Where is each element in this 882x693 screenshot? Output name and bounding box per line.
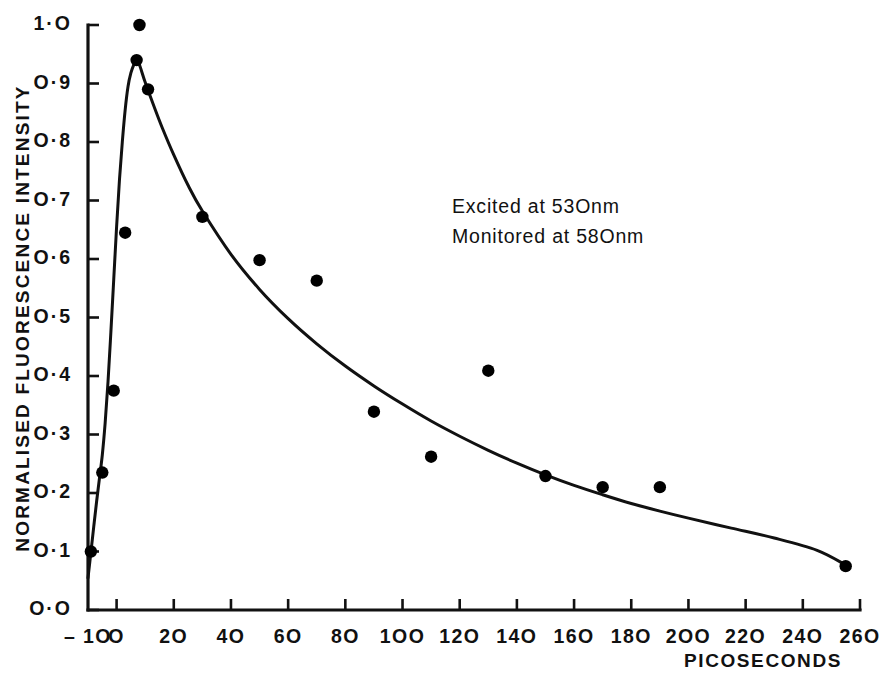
fluorescence-decay-chart: O·OO·1O·2O·3O·4O·5O·6O·7O·8O·91·O – 1OO2… bbox=[0, 0, 882, 693]
data-point bbox=[85, 545, 97, 557]
y-tick-label: O·7 bbox=[33, 188, 72, 210]
x-tick-label: 12O bbox=[439, 625, 480, 647]
x-tick-label: – 1O bbox=[64, 625, 112, 647]
x-axis-title: PICOSECONDS bbox=[684, 650, 842, 671]
x-tick-label: 14O bbox=[496, 625, 537, 647]
y-tick-label: O·5 bbox=[33, 305, 72, 327]
annotation-monitoring: Monitored at 58Onm bbox=[452, 225, 644, 247]
data-point bbox=[368, 405, 380, 417]
data-point bbox=[311, 274, 323, 286]
data-point bbox=[253, 254, 265, 266]
data-point bbox=[130, 54, 142, 66]
data-point bbox=[133, 19, 145, 31]
x-tick-label: 2O bbox=[159, 625, 188, 647]
annotation-excitation: Excited at 53Onm bbox=[452, 195, 620, 217]
x-tick-label: 8O bbox=[331, 625, 360, 647]
y-tick-label: O·O bbox=[29, 597, 72, 619]
x-axis-ticks bbox=[117, 599, 860, 610]
y-tick-label: O·8 bbox=[33, 129, 72, 151]
data-point bbox=[539, 470, 551, 482]
x-tick-label: 4O bbox=[217, 625, 246, 647]
y-tick-label: O·3 bbox=[33, 422, 72, 444]
y-tick-label: O·9 bbox=[33, 71, 72, 93]
x-tick-label: O bbox=[108, 625, 125, 647]
x-tick-label: 26O bbox=[839, 625, 880, 647]
x-tick-label: 24O bbox=[782, 625, 823, 647]
y-tick-label: O·2 bbox=[33, 480, 72, 502]
fluorescence-decay-figure: O·OO·1O·2O·3O·4O·5O·6O·7O·8O·91·O – 1OO2… bbox=[0, 0, 882, 693]
x-tick-label: 2OO bbox=[666, 625, 711, 647]
x-tick-label: 18O bbox=[611, 625, 652, 647]
y-tick-label: O·4 bbox=[33, 363, 72, 385]
chart-annotations: Excited at 53Onm Monitored at 58Onm bbox=[452, 195, 644, 247]
data-point bbox=[596, 481, 608, 493]
data-point bbox=[196, 211, 208, 223]
x-axis-tick-labels: – 1OO2O4O6O8O1OO12O14O16O18O2OO22O24O26O bbox=[64, 625, 880, 647]
data-point-markers bbox=[85, 19, 852, 573]
y-axis-title: NORMALISED FLUORESCENCE INTENSITY bbox=[12, 84, 33, 551]
y-tick-label: 1·O bbox=[33, 12, 72, 34]
data-point bbox=[108, 384, 120, 396]
x-tick-label: 6O bbox=[274, 625, 303, 647]
data-point bbox=[119, 226, 131, 238]
data-point bbox=[425, 451, 437, 463]
y-tick-label: O·1 bbox=[33, 539, 72, 561]
data-point bbox=[96, 466, 108, 478]
x-tick-label: 16O bbox=[554, 625, 595, 647]
data-point bbox=[840, 560, 852, 572]
x-tick-label: 1OO bbox=[380, 625, 425, 647]
y-axis-tick-labels: O·OO·1O·2O·3O·4O·5O·6O·7O·8O·91·O bbox=[29, 12, 72, 619]
data-point bbox=[142, 83, 154, 95]
data-point bbox=[654, 481, 666, 493]
fitted-decay-curve bbox=[88, 60, 846, 578]
data-point bbox=[482, 365, 494, 377]
y-tick-label: O·6 bbox=[33, 246, 72, 268]
axes-group bbox=[88, 25, 860, 610]
x-tick-label: 22O bbox=[725, 625, 766, 647]
